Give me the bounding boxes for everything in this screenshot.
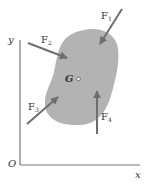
force-label-f3: F3 xyxy=(28,102,39,113)
force-label-f2: F2 xyxy=(41,35,52,46)
force-label-f1: F1 xyxy=(101,11,112,22)
y-axis-label: y xyxy=(8,35,14,45)
x-axis-label: x xyxy=(135,170,141,180)
force-label-f4: F4 xyxy=(101,112,112,123)
centroid-label: G xyxy=(65,74,74,84)
centroid-point xyxy=(77,77,81,81)
origin-label: O xyxy=(8,159,16,169)
force-diagram xyxy=(0,0,150,184)
